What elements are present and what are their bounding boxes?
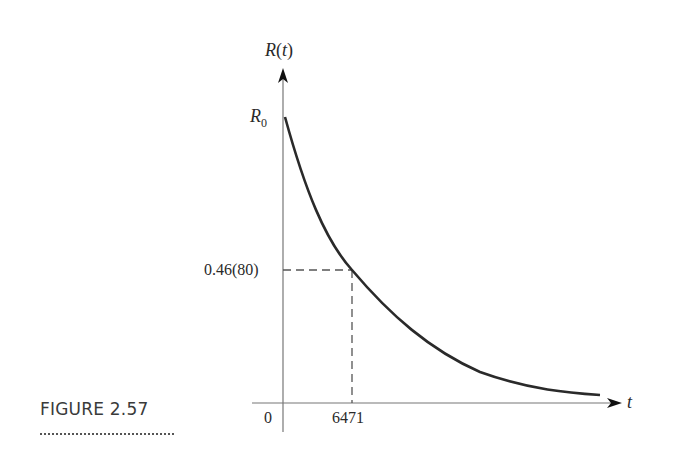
x-tick-0: 0 (264, 409, 272, 427)
caption-dotted-underline (40, 433, 174, 435)
x-tick-6471: 6471 (332, 409, 364, 427)
decay-curve (285, 117, 600, 395)
x-axis-label: t (627, 392, 632, 413)
figure-caption: FIGURE 2.57 (40, 399, 148, 419)
y-axis-label: R(t) (265, 40, 293, 61)
y-tick-046: 0.46(80) (204, 261, 259, 279)
y-tick-r0: R0 (250, 106, 267, 131)
